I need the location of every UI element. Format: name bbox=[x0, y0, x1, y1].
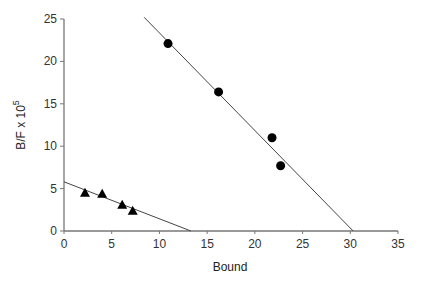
data-points bbox=[80, 39, 285, 215]
y-tick-label: 25 bbox=[44, 12, 58, 26]
axes: 051015202530350510152025 bbox=[44, 12, 405, 251]
x-tick-label: 25 bbox=[296, 237, 310, 251]
y-tick-label: 20 bbox=[44, 54, 58, 68]
fit-lines bbox=[64, 17, 353, 231]
x-tick-label: 30 bbox=[344, 237, 358, 251]
triangle-marker bbox=[80, 188, 90, 197]
y-tick-label: 10 bbox=[44, 139, 58, 153]
x-tick-label: 15 bbox=[200, 237, 214, 251]
circle-marker bbox=[164, 39, 173, 48]
circle-marker bbox=[276, 161, 285, 170]
y-axis-label: B/F x 105 bbox=[11, 100, 28, 150]
y-axis-label-main: B/F x 10 bbox=[14, 105, 28, 150]
circle-marker bbox=[268, 133, 277, 142]
triangle-marker bbox=[97, 189, 107, 198]
x-tick-label: 20 bbox=[248, 237, 262, 251]
y-tick-label: 0 bbox=[50, 224, 57, 238]
scatchard-plot: 051015202530350510152025 Bound B/F x 105 bbox=[0, 0, 422, 282]
triangle-marker bbox=[117, 200, 127, 209]
x-axis-label: Bound bbox=[213, 260, 248, 274]
x-tick-label: 0 bbox=[61, 237, 68, 251]
x-tick-label: 5 bbox=[108, 237, 115, 251]
circles-fit-line bbox=[144, 17, 353, 231]
x-tick-label: 10 bbox=[153, 237, 167, 251]
triangles-fit-line bbox=[64, 182, 191, 231]
y-tick-label: 15 bbox=[44, 97, 58, 111]
y-tick-label: 5 bbox=[50, 182, 57, 196]
x-tick-label: 35 bbox=[391, 237, 405, 251]
y-axis-label-exponent: 5 bbox=[11, 100, 21, 105]
circle-marker bbox=[214, 87, 223, 96]
